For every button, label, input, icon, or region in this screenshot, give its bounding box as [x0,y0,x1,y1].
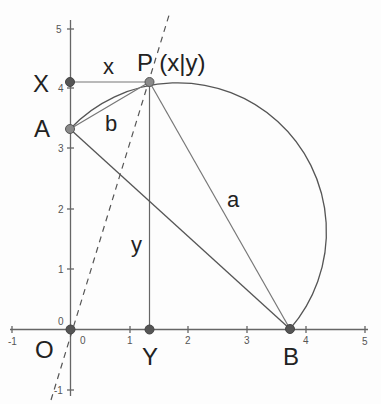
y-tick-label: 2 [58,204,64,215]
geometry-diagram: -1 0 1 2 3 4 5 5 4 3 2 1 0 -1 X A P (x|y… [0,0,381,404]
y-tick-label: 3 [58,143,64,154]
point-y[interactable] [145,325,154,334]
label-point-o: O [35,336,54,363]
segment-a [150,82,291,329]
label-segment-y: y [131,232,142,257]
y-axis [67,20,74,396]
x-tick-label: 4 [303,335,309,346]
label-segment-a: a [227,187,240,212]
label-point-p: P (x|y) [137,49,205,76]
y-tick-label: 5 [56,24,62,35]
point-a[interactable] [66,125,75,134]
label-point-y: Y [142,343,158,370]
y-tick-label: 4 [58,83,64,94]
label-segment-b: b [105,111,117,136]
x-tick-label: 1 [127,335,133,346]
point-o[interactable] [66,325,75,334]
label-point-a: A [34,115,50,142]
x-tick-label: 2 [185,335,191,346]
x-tick-label: 5 [362,336,368,347]
x-tick-label: 3 [244,335,250,346]
y-tick-label: 1 [58,264,64,275]
point-p[interactable] [145,78,154,87]
x-tick-label: -1 [8,336,17,347]
point-b[interactable] [286,325,295,334]
point-x[interactable] [66,78,75,87]
y-tick-label: 0 [58,316,64,327]
label-point-x: X [33,70,49,97]
diagram-canvas: -1 0 1 2 3 4 5 5 4 3 2 1 0 -1 X A P (x|y… [0,0,381,404]
label-segment-x: x [103,54,114,79]
x-axis [10,326,368,333]
label-point-b: B [283,343,299,370]
x-tick-label: 0 [80,335,86,346]
